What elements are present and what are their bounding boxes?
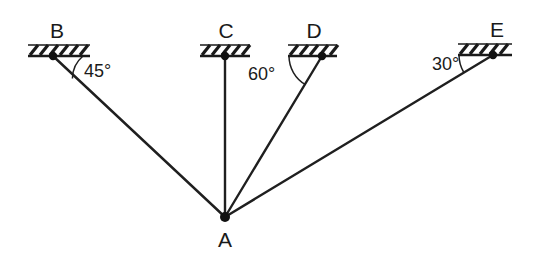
support-hatching-d — [288, 45, 338, 55]
member-ab — [53, 56, 225, 217]
support-node-e — [489, 51, 497, 59]
angle-label-b: 45° — [84, 61, 111, 81]
support-e — [458, 44, 512, 59]
support-d — [288, 45, 338, 60]
node-label-c: C — [218, 19, 233, 42]
joint-node-a — [220, 212, 230, 222]
node-label-b: B — [50, 19, 64, 42]
support-node-c — [221, 52, 229, 60]
node-labels-group: B C D E A — [50, 18, 504, 251]
node-label-d: D — [306, 19, 321, 42]
angle-labels-group: 45° 60° 30° — [84, 54, 459, 84]
node-label-a: A — [218, 228, 232, 251]
truss-diagram: B C D E A 45° 60° 30° — [0, 0, 533, 258]
support-node-d — [318, 52, 326, 60]
diagram-canvas: B C D E A 45° 60° 30° — [0, 0, 533, 258]
angle-label-d: 60° — [248, 64, 275, 84]
support-hatching-e — [458, 44, 512, 54]
angle-label-e: 30° — [432, 54, 459, 74]
angle-arc-d — [289, 56, 306, 85]
support-node-b — [49, 52, 57, 60]
node-label-e: E — [490, 18, 504, 41]
angle-arc-e — [459, 55, 464, 72]
support-hatching-b — [28, 45, 90, 55]
support-c — [200, 45, 250, 60]
